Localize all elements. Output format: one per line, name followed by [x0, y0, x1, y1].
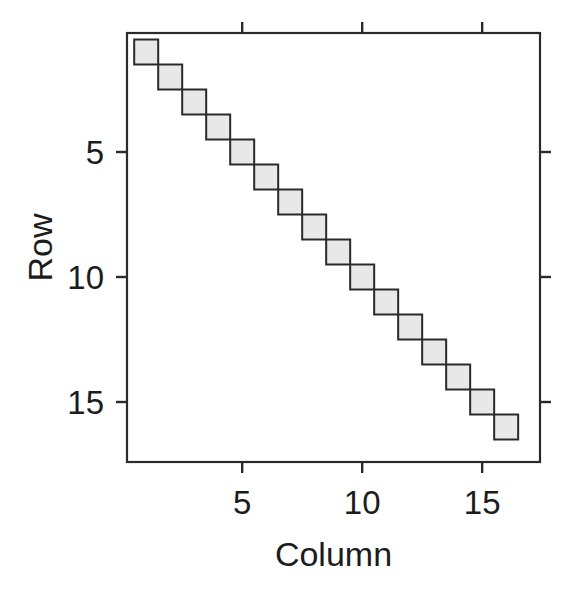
x-tick-label: 10	[344, 484, 381, 521]
diagonal-cell	[206, 115, 230, 140]
y-tick-label: 10	[67, 259, 104, 296]
diagonal-cell	[374, 290, 398, 315]
diagonal-cell	[398, 315, 422, 340]
plot-svg: 5101551015ColumnRow	[0, 0, 576, 595]
diagonal-cell	[350, 265, 374, 290]
diagonal-cell	[494, 415, 518, 440]
diagonal-cell	[230, 140, 254, 165]
y-tick-label: 5	[86, 134, 104, 171]
diagonal-cell	[158, 65, 182, 90]
x-tick-label: 5	[233, 484, 251, 521]
diagonal-cell	[422, 340, 446, 365]
x-tick-label: 15	[464, 484, 501, 521]
x-axis-label: Column	[275, 535, 392, 573]
diagonal-cell	[470, 390, 494, 415]
diagonal-cell	[302, 215, 326, 240]
y-axis-label: Row	[21, 213, 59, 281]
diagonal-cell	[326, 240, 350, 265]
y-tick-label: 15	[67, 384, 104, 421]
diagonal-cell	[134, 40, 158, 65]
diagonal-cell	[446, 365, 470, 390]
diagonal-cell	[182, 90, 206, 115]
diagonal-cell	[278, 190, 302, 215]
diagonal-cell	[254, 165, 278, 190]
matrix-diagonal-plot: 5101551015ColumnRow	[0, 0, 576, 595]
